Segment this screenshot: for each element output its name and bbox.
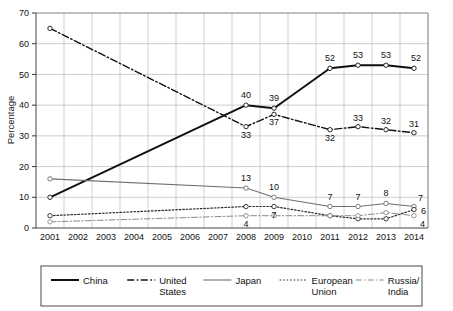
data-point-label: 53 (353, 50, 363, 60)
y-tick-label: 10 (19, 192, 29, 202)
series-marker (244, 204, 248, 208)
legend-label: Japan (235, 275, 261, 286)
data-point-label: 7 (355, 192, 360, 202)
y-tick-label: 50 (19, 70, 29, 80)
series-marker (272, 106, 276, 110)
series-marker (384, 128, 388, 132)
x-axis-ticks: 2001200220032004200520062007200820092010… (40, 232, 424, 242)
x-tick-label: 2003 (96, 232, 116, 242)
data-point-label: 7 (271, 210, 276, 220)
legend-label: Russia/ (388, 275, 420, 286)
series-marker (384, 217, 388, 221)
x-tick-label: 2010 (292, 232, 312, 242)
series-marker (244, 186, 248, 190)
series-marker (48, 220, 52, 224)
series-marker (244, 103, 248, 107)
data-point-label: 4 (420, 219, 425, 229)
data-point-label: 53 (381, 50, 391, 60)
x-tick-label: 2007 (208, 232, 228, 242)
legend-label: European (312, 275, 353, 286)
data-point-label: 31 (409, 119, 419, 129)
series-marker (328, 214, 332, 218)
y-tick-label: 40 (19, 100, 29, 110)
x-tick-label: 2001 (40, 232, 60, 242)
data-point-label: 7 (327, 192, 332, 202)
line-chart-figure: 010203040506070 200120022003200420052006… (0, 0, 453, 311)
series-marker (244, 124, 248, 128)
data-point-label: 10 (269, 182, 279, 192)
x-tick-label: 2014 (404, 232, 424, 242)
y-tick-label: 30 (19, 131, 29, 141)
series-marker (384, 63, 388, 67)
series-marker (48, 195, 52, 199)
x-tick-label: 2009 (264, 232, 284, 242)
y-tick-label: 20 (19, 162, 29, 172)
legend-label-line2: States (159, 286, 186, 297)
data-point-label: 32 (381, 116, 391, 126)
series-marker (412, 131, 416, 135)
series-marker (272, 112, 276, 116)
data-point-label: 13 (241, 173, 251, 183)
series-marker (356, 63, 360, 67)
series-marker (272, 195, 276, 199)
series-marker (244, 214, 248, 218)
series-marker (272, 204, 276, 208)
series-marker (328, 128, 332, 132)
series-marker (328, 204, 332, 208)
data-point-label: 39 (269, 93, 279, 103)
y-tick-label: 0 (24, 223, 29, 233)
x-tick-label: 2004 (124, 232, 144, 242)
series-marker (356, 214, 360, 218)
data-point-label: 8 (383, 188, 388, 198)
x-tick-label: 2011 (320, 232, 339, 242)
series-marker (356, 124, 360, 128)
data-point-label: 52 (325, 53, 335, 63)
data-point-label: 7 (418, 193, 423, 203)
x-tick-label: 2008 (236, 232, 256, 242)
y-axis-title: Percentage (5, 96, 16, 145)
data-point-label: 40 (241, 90, 251, 100)
data-point-label: 37 (269, 117, 279, 127)
series-marker (48, 26, 52, 30)
x-tick-label: 2002 (68, 232, 88, 242)
legend-label-line2: Union (312, 286, 337, 297)
y-axis-ticks: 010203040506070 (19, 8, 36, 233)
chart-svg: 010203040506070 200120022003200420052006… (0, 0, 453, 311)
series-marker (356, 204, 360, 208)
series-marker (412, 214, 416, 218)
legend-label: China (83, 275, 109, 286)
series-marker (412, 66, 416, 70)
data-point-label: 33 (353, 113, 363, 123)
series-marker (412, 207, 416, 211)
y-tick-label: 70 (19, 8, 29, 18)
series-marker (384, 201, 388, 205)
x-tick-label: 2005 (152, 232, 172, 242)
series-marker (48, 214, 52, 218)
data-point-label: 52 (411, 53, 421, 63)
x-tick-label: 2013 (376, 232, 396, 242)
x-tick-label: 2006 (180, 232, 200, 242)
legend-label-line2: India (388, 286, 409, 297)
legend-box (41, 266, 422, 306)
data-point-label: 32 (325, 133, 335, 143)
data-point-label: 6 (421, 206, 426, 216)
series-marker (48, 177, 52, 181)
series-marker (328, 66, 332, 70)
legend-label: United (159, 275, 186, 286)
data-point-label: 33 (241, 130, 251, 140)
data-point-label: 4 (243, 219, 248, 229)
series-marker (384, 210, 388, 214)
x-tick-label: 2012 (348, 232, 368, 242)
y-tick-label: 60 (19, 39, 29, 49)
